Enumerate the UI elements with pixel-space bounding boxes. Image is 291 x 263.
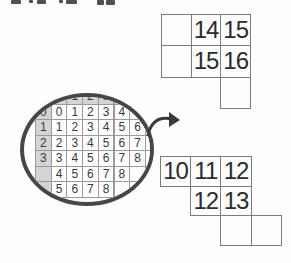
worksheet-figure: 0123400123411234562234567833456789456785… [0, 0, 291, 263]
magnifier-cell: 7 [82, 181, 99, 198]
puzzle-cell: 11 [190, 156, 221, 187]
magnifier-header-cell: 2 [35, 135, 52, 152]
magnifier-header-cell [35, 166, 52, 183]
magnifier-cell: 3 [51, 150, 68, 167]
magnifier-cell: 5 [66, 166, 83, 183]
magnifier-header-cell: 3 [35, 150, 52, 167]
magnifier-cell: 8 [98, 181, 115, 198]
magnifier-cell [129, 166, 146, 183]
magnifier-cell: 7 [98, 166, 115, 183]
puzzle-cell-empty [161, 45, 192, 77]
magnifier-cell: 2 [51, 135, 68, 152]
magnifier-cell: 6 [114, 135, 131, 152]
cut-off-text-fragment [29, 0, 33, 3]
puzzle-cell-empty [220, 77, 251, 109]
magnifier-cell [145, 166, 154, 183]
magnifier-cell: 1 [51, 119, 68, 136]
magnifier-cell: 7 [114, 150, 131, 167]
magnifier-cell: 2 [82, 104, 99, 121]
puzzle-piece-top: 14151516 [161, 14, 253, 110]
magnifier-cell: 8 [129, 150, 146, 167]
magnifier-cell: 4 [98, 119, 115, 136]
puzzle-cell: 15 [220, 14, 251, 46]
magnifier-cell [145, 181, 154, 198]
magnifier-cell: 1 [66, 104, 83, 121]
magnifier-cell: 3 [82, 119, 99, 136]
cut-off-text-fragment [59, 0, 63, 3]
magnifier-cell: 6 [82, 166, 99, 183]
cut-off-text-fragment [106, 0, 115, 5]
magnifier-cell: 4 [114, 104, 131, 121]
puzzle-cell: 15 [191, 45, 222, 77]
magnifier-cell [129, 181, 146, 198]
cut-off-text-fragment [97, 0, 104, 5]
magnifier-cell: 4 [82, 135, 99, 152]
puzzle-cell: 16 [220, 45, 251, 77]
magnifier-cell: 4 [66, 150, 83, 167]
puzzle-cell-empty [161, 14, 192, 46]
puzzle-cell-empty [251, 215, 282, 246]
puzzle-cell: 12 [220, 156, 251, 187]
magnifier-cell: 0 [51, 104, 68, 121]
puzzle-piece-bottom: 1011121213 [160, 156, 283, 248]
puzzle-cell: 10 [160, 156, 191, 187]
cut-off-text-fragment [11, 0, 21, 4]
cut-off-text-fragment [37, 0, 46, 4]
puzzle-cell: 13 [220, 186, 251, 217]
cut-off-text-fragment [66, 0, 77, 4]
puzzle-cell: 14 [191, 14, 222, 46]
magnifier-cell [114, 181, 131, 198]
magnifier-cell: 5 [114, 119, 131, 136]
magnifier-cell: 6 [98, 150, 115, 167]
puzzle-cell: 12 [190, 186, 221, 217]
magnifier-header-cell [35, 181, 52, 198]
magnifier-cell: 2 [66, 119, 83, 136]
magnifier-cell: 6 [66, 181, 83, 198]
magnifier-cell: 9 [145, 150, 154, 167]
puzzle-cell-empty [220, 215, 251, 246]
magnifier-cell: 5 [98, 135, 115, 152]
magnifier-cell: 4 [51, 166, 68, 183]
magnifier-header-cell: 0 [35, 104, 52, 121]
magnifier-cell: 3 [98, 104, 115, 121]
magnifier-cell: 5 [51, 181, 68, 198]
magnifier-cell: 3 [66, 135, 83, 152]
magnifier-cell: 8 [114, 166, 131, 183]
magnifier-cell: 5 [82, 150, 99, 167]
magnifier-header-cell: 1 [35, 119, 52, 136]
